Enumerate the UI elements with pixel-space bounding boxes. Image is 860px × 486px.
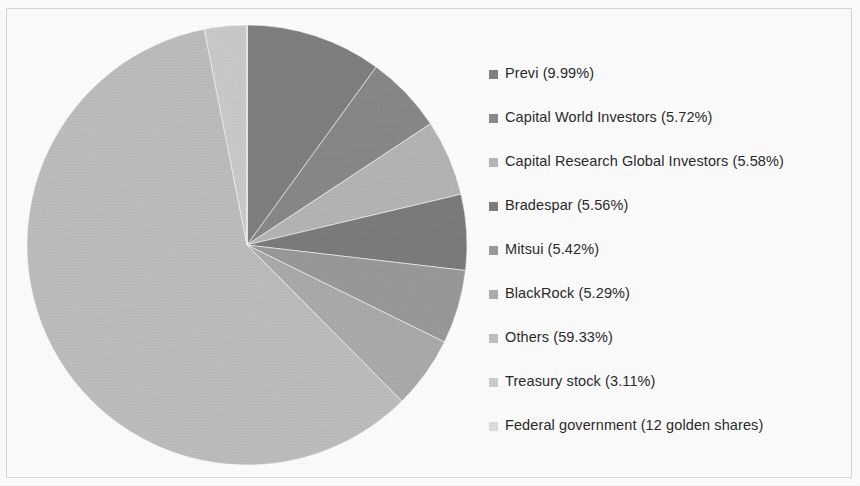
legend-item-label: BlackRock (5.29%) bbox=[505, 286, 630, 302]
legend-swatch-icon bbox=[489, 422, 498, 431]
legend-item[interactable]: Capital Research Global Investors (5.58%… bbox=[489, 140, 860, 184]
legend-item-label: Previ (9.99%) bbox=[505, 66, 594, 82]
legend-swatch-icon bbox=[489, 202, 498, 211]
chart-legend: Previ (9.99%)Capital World Investors (5.… bbox=[489, 52, 860, 448]
legend-swatch-icon bbox=[489, 158, 498, 167]
pie-chart-plot-area bbox=[0, 0, 480, 486]
legend-item[interactable]: Mitsui (5.42%) bbox=[489, 228, 860, 272]
legend-item[interactable]: Treasury stock (3.11%) bbox=[489, 360, 860, 404]
legend-item[interactable]: Capital World Investors (5.72%) bbox=[489, 96, 860, 140]
legend-swatch-icon bbox=[489, 378, 498, 387]
legend-item[interactable]: BlackRock (5.29%) bbox=[489, 272, 860, 316]
legend-swatch-icon bbox=[489, 334, 498, 343]
legend-item[interactable]: Previ (9.99%) bbox=[489, 52, 860, 96]
legend-swatch-icon bbox=[489, 246, 498, 255]
legend-item[interactable]: Federal government (12 golden shares) bbox=[489, 404, 860, 448]
pie-chart-figure: Previ (9.99%)Capital World Investors (5.… bbox=[0, 0, 860, 486]
legend-item-label: Others (59.33%) bbox=[505, 330, 613, 346]
pie-chart-svg bbox=[0, 0, 480, 486]
legend-swatch-icon bbox=[489, 70, 498, 79]
legend-item-label: Treasury stock (3.11%) bbox=[505, 374, 655, 390]
legend-item[interactable]: Others (59.33%) bbox=[489, 316, 860, 360]
legend-swatch-icon bbox=[489, 290, 498, 299]
pie-slices-group bbox=[27, 25, 467, 465]
legend-swatch-icon bbox=[489, 114, 498, 123]
legend-item-label: Bradespar (5.56%) bbox=[505, 198, 628, 214]
legend-item-label: Mitsui (5.42%) bbox=[505, 242, 599, 258]
legend-item-label: Capital World Investors (5.72%) bbox=[505, 110, 713, 126]
legend-item-label: Capital Research Global Investors (5.58%… bbox=[505, 154, 784, 170]
legend-item[interactable]: Bradespar (5.56%) bbox=[489, 184, 860, 228]
legend-item-label: Federal government (12 golden shares) bbox=[505, 418, 763, 434]
